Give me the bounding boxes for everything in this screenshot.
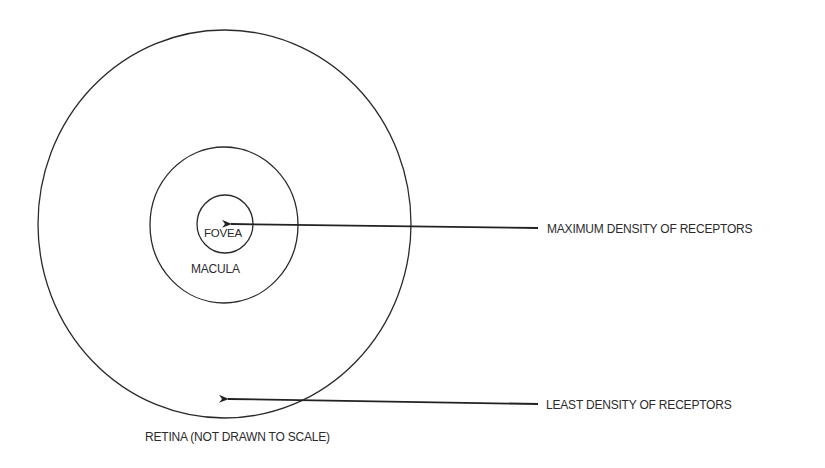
retina-circle — [38, 30, 411, 418]
max-density-arrow — [231, 224, 538, 228]
fovea-label: FOVEA — [204, 226, 242, 240]
macula-label: MACULA — [191, 262, 240, 276]
least-density-arrow — [228, 399, 538, 404]
least-density-label: LEAST DENSITY OF RECEPTORS — [546, 398, 732, 412]
max-density-label: MAXIMUM DENSITY OF RECEPTORS — [547, 222, 752, 236]
retina-caption: RETINA (NOT DRAWN TO SCALE) — [145, 430, 330, 444]
